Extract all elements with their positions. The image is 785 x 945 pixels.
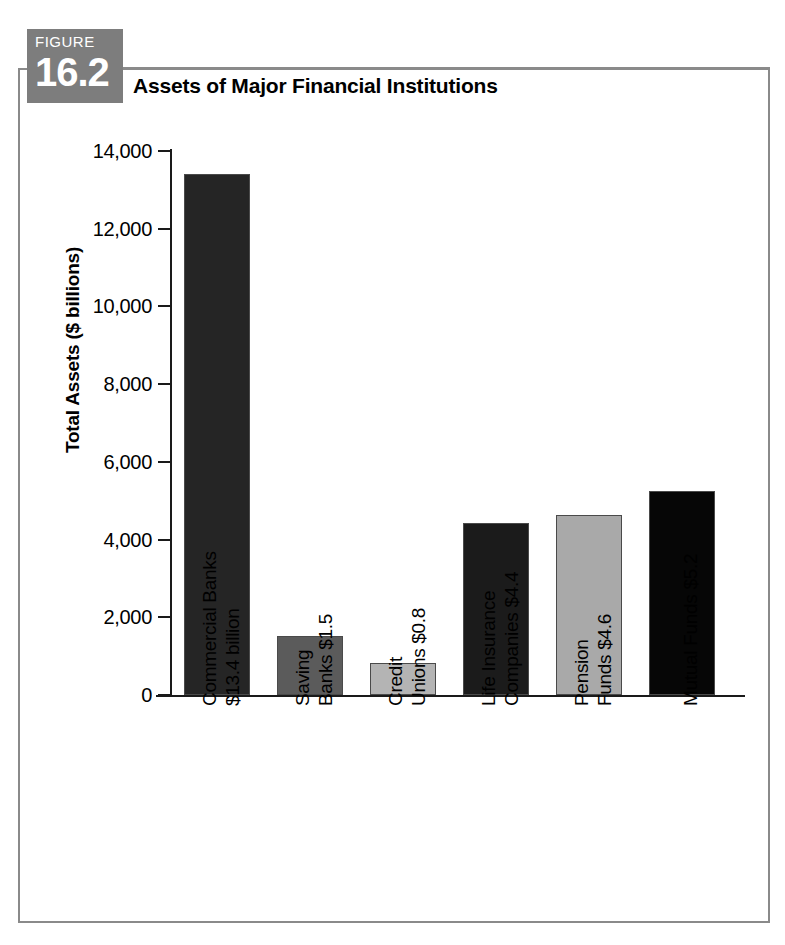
y-axis-tick-label: 0: [141, 685, 152, 705]
y-axis-tick-label: 10,000: [93, 296, 152, 316]
chart-title: Assets of Major Financial Institutions: [133, 74, 498, 98]
x-axis-category-label-5: Mutual Funds $5.2: [679, 554, 702, 706]
x-axis-category-label-2: CreditUnions $0.8: [384, 608, 430, 706]
category-label-line2: Companies $4.4: [500, 572, 523, 706]
y-axis-tick-mark: [158, 305, 171, 307]
y-axis-tick-mark: [158, 461, 171, 463]
y-axis-tick-mark: [158, 383, 171, 385]
y-axis-tick-label: 14,000: [93, 141, 152, 161]
x-axis-category-label-0: Commercial Banks$13.4 billion: [198, 551, 244, 706]
category-label-line1: Credit: [385, 657, 406, 706]
x-axis-category-label-1: SavingBanks $1.5: [291, 614, 337, 706]
title-divider-rule: [123, 67, 770, 69]
y-axis-tick-labels: 14,00012,00010,0008,0006,0004,0002,0000: [0, 0, 152, 945]
y-axis-tick-label: 8,000: [103, 374, 152, 394]
category-label-line2: Banks $1.5: [314, 614, 337, 706]
category-label-line1: Mutual Funds $5.2: [680, 554, 701, 706]
x-axis-line: [156, 695, 745, 697]
figure-number-badge: FIGURE 16.2: [27, 29, 123, 103]
category-label-line1: Pension: [571, 639, 592, 706]
category-label-line1: Commercial Banks: [199, 551, 220, 706]
category-label-line1: Saving: [292, 650, 313, 706]
category-label-line2: Unions $0.8: [407, 608, 430, 706]
y-axis-tick-label: 2,000: [103, 607, 152, 627]
category-label-line1: Life Insurance: [478, 591, 499, 706]
figure-badge-number: 16.2: [35, 50, 117, 94]
plot-area: [171, 151, 734, 695]
category-label-line2: $13.4 billion: [221, 551, 244, 706]
y-axis-tick-mark: [158, 616, 171, 618]
y-axis-tick-mark: [158, 228, 171, 230]
x-axis-category-label-3: Life InsuranceCompanies $4.4: [477, 572, 523, 706]
y-axis-tick-label: 6,000: [103, 452, 152, 472]
category-label-line2: Funds $4.6: [593, 614, 616, 706]
y-axis-tick-label: 4,000: [103, 530, 152, 550]
y-axis-tick-mark: [158, 150, 171, 152]
figure-badge-word: FIGURE: [35, 33, 117, 50]
x-axis-category-label-4: PensionFunds $4.6: [570, 614, 616, 706]
y-axis-tick-mark: [158, 694, 171, 696]
y-axis-tick-label: 12,000: [93, 219, 152, 239]
y-axis-tick-mark: [158, 539, 171, 541]
